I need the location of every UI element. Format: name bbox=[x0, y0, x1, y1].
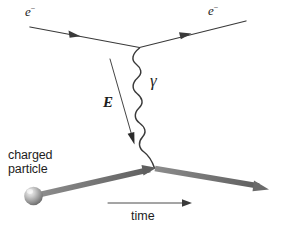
photon-wavy-line bbox=[133, 48, 155, 168]
label-electric-field: E bbox=[103, 94, 113, 110]
electric-field-arrowhead bbox=[128, 132, 135, 144]
outgoing-electron-arrowhead bbox=[179, 32, 192, 39]
label-time-axis: time bbox=[131, 210, 155, 224]
label-charged-particle-line1: charged bbox=[8, 148, 52, 162]
time-axis-arrow bbox=[108, 199, 192, 206]
outgoing-electron-line bbox=[140, 21, 247, 48]
charged-particle-outgoing-arrowhead bbox=[253, 181, 270, 192]
electric-field-arrow bbox=[110, 59, 135, 145]
label-photon: γ bbox=[150, 72, 157, 90]
incoming-electron-line bbox=[30, 27, 140, 48]
label-incoming-electron: e− bbox=[25, 5, 35, 19]
charged-particle-outgoing-line bbox=[155, 169, 269, 192]
label-charged-particle: chargedparticle bbox=[8, 149, 52, 176]
label-outgoing-electron-charge: − bbox=[214, 3, 219, 12]
time-axis-arrowhead bbox=[182, 199, 192, 206]
label-charged-particle-line2: particle bbox=[8, 162, 48, 176]
charged-particle-incoming-line bbox=[40, 165, 157, 195]
feynman-diagram-canvas bbox=[0, 0, 282, 235]
label-incoming-electron-charge: − bbox=[31, 4, 36, 13]
feynman-diagram-figure: e− e− γ E chargedparticle time bbox=[0, 0, 282, 235]
label-outgoing-electron: e− bbox=[208, 4, 218, 18]
charged-particle-sphere bbox=[24, 187, 43, 206]
